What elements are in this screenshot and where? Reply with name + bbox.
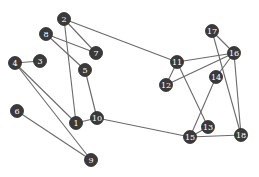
edge-2-7 [64,19,96,53]
edge-2-1 [64,19,76,123]
node-4: 4 [9,57,22,70]
edge-11-13 [177,62,208,127]
node-7: 7 [90,47,103,60]
edge-10-15 [97,118,190,137]
node-label: 14 [211,73,221,82]
node-label: 1 [73,119,78,128]
node-label: 4 [12,59,17,68]
node-label: 5 [82,66,87,75]
edge-4-9 [15,63,91,160]
node-16: 16 [228,47,241,60]
edge-8-7 [46,34,96,53]
node-label: 10 [92,114,102,123]
node-5: 5 [79,64,92,77]
node-label: 9 [88,156,93,165]
node-10: 10 [91,112,104,125]
node-2: 2 [58,13,71,26]
node-label: 3 [37,57,42,66]
node-3: 3 [34,55,47,68]
node-label: 6 [14,107,19,116]
edge-2-11 [64,19,177,62]
nodes-layer: 123456789101112131415161718 [9,13,248,167]
node-label: 18 [236,131,246,140]
node-label: 7 [93,49,98,58]
node-label: 2 [61,15,66,24]
node-14: 14 [210,71,223,84]
node-label: 17 [207,27,217,36]
node-label: 8 [43,30,48,39]
node-label: 15 [185,133,195,142]
node-6: 6 [11,105,24,118]
node-15: 15 [184,131,197,144]
node-17: 17 [206,25,219,38]
edge-5-10 [85,70,97,118]
graph-diagram: 123456789101112131415161718 [0,0,259,177]
edge-15-18 [190,135,241,137]
node-label: 11 [172,58,182,67]
node-label: 16 [229,49,239,58]
node-13: 13 [202,121,215,134]
node-1: 1 [70,117,83,130]
node-9: 9 [85,154,98,167]
node-12: 12 [160,79,173,92]
node-18: 18 [235,129,248,142]
node-label: 13 [203,123,213,132]
node-11: 11 [171,56,184,69]
edge-8-5 [46,34,85,70]
edge-4-1 [15,63,76,123]
node-label: 12 [161,81,171,90]
node-8: 8 [40,28,53,41]
